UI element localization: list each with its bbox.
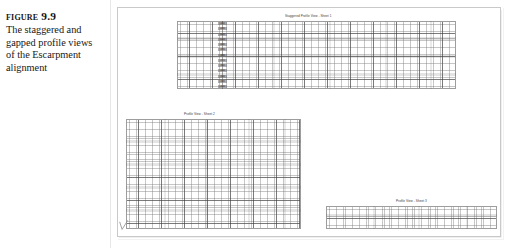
profile-middle-grid <box>126 119 301 229</box>
figure-frame: Staggered Profile View - Sheet 1 440 430… <box>117 7 501 237</box>
profile-top-grid <box>177 21 456 89</box>
figure-number-label: Figure 9.9 <box>6 10 103 23</box>
profile-panel-middle[interactable]: Profile View - Sheet 2 <box>126 119 301 229</box>
profile-top-axis-rule <box>222 21 224 89</box>
profile-panel-bottom[interactable]: Profile View - Sheet 3 <box>326 206 497 229</box>
check-mark-icon <box>119 220 129 231</box>
profile-bottom-title: Profile View - Sheet 3 <box>396 199 427 204</box>
profile-panel-top[interactable]: Staggered Profile View - Sheet 1 440 430… <box>177 21 456 89</box>
profile-bottom-grid <box>326 206 497 229</box>
figure-caption-text: The staggered and gapped profile views o… <box>6 24 103 74</box>
profile-middle-title: Profile View - Sheet 2 <box>184 112 215 117</box>
figure-caption: Figure 9.9 The staggered and gapped prof… <box>6 10 103 74</box>
profile-top-title: Staggered Profile View - Sheet 1 <box>285 14 331 19</box>
page-gutter-rule <box>110 0 111 248</box>
